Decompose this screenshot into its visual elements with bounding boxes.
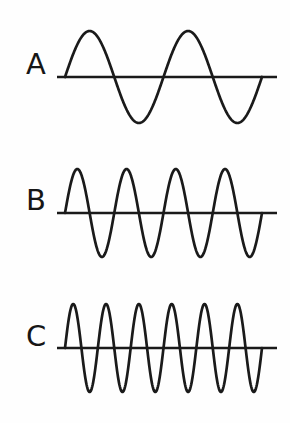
wave-row-b: B [0,141,290,282]
wave-graphic-c [0,282,290,423]
wave-frequency-figure: A B C [0,0,290,423]
wave-graphic-b [0,141,290,282]
wave-graphic-a [0,0,290,141]
wave-row-c: C [0,282,290,423]
wave-row-a: A [0,0,290,141]
